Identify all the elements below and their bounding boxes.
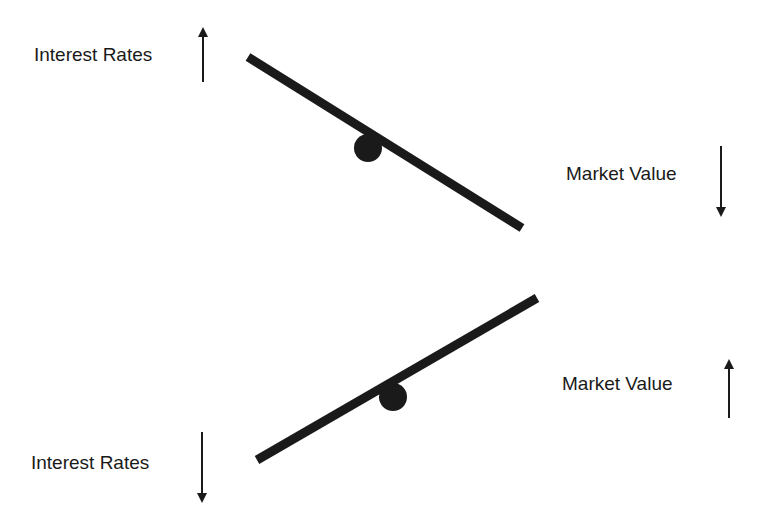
top-seesaw: [203, 32, 721, 228]
bottom-left-label: Interest Rates: [31, 452, 149, 474]
top-left-label: Interest Rates: [34, 44, 152, 66]
top-right-label: Market Value: [566, 163, 677, 185]
bottom-right-label: Market Value: [562, 373, 673, 395]
top-lever-bar: [248, 57, 522, 228]
seesaw-diagram: [0, 0, 764, 529]
bottom-lever-bar: [257, 298, 537, 460]
bottom-seesaw: [202, 298, 729, 498]
